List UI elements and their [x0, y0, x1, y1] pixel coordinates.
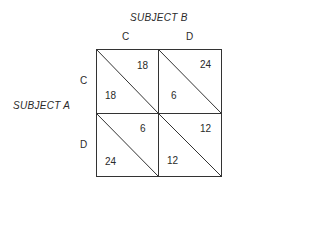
- cell-dd-payoff-b: 12: [200, 124, 211, 134]
- cell-dd-payoff-a: 12: [167, 156, 178, 166]
- cell-cd-payoff-b: 24: [200, 60, 211, 70]
- cell-cc-payoff-a: 18: [105, 91, 116, 101]
- cell-dc-payoff-a: 24: [105, 157, 116, 167]
- cell-cd-payoff-a: 6: [171, 91, 177, 101]
- cell-cc-payoff-b: 18: [137, 61, 148, 71]
- cell-dc-payoff-b: 6: [140, 124, 146, 134]
